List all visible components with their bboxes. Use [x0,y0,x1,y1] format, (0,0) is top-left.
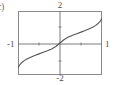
axis-label-right: 1 [105,40,110,49]
axis-label-left: -1 [7,40,15,49]
graph-figure: c) 2 -2 -1 1 [0,0,114,85]
axis-label-top: 2 [58,1,63,10]
axis-label-bottom: -2 [56,74,64,83]
figure-item-label: c) [0,1,4,12]
plot-area [18,11,102,75]
